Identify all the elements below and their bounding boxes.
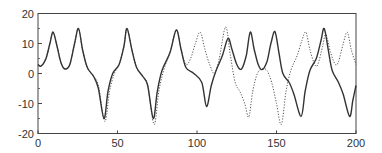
x-tick-label: 0 [35, 137, 41, 149]
series-group [38, 27, 356, 125]
y-tick-label: -20 [18, 128, 34, 140]
x-tick-label: 100 [188, 137, 206, 149]
x-tick-label: 200 [347, 137, 365, 149]
line-chart: -20-1001020 050100150200 [0, 0, 382, 153]
y-tick-label: 10 [22, 38, 34, 50]
y-tick-label: -10 [18, 98, 34, 110]
x-tick-label: 150 [267, 137, 285, 149]
y-tick-label: 20 [22, 8, 34, 20]
y-tick-label: 0 [28, 68, 34, 80]
x-tick-label: 50 [111, 137, 123, 149]
